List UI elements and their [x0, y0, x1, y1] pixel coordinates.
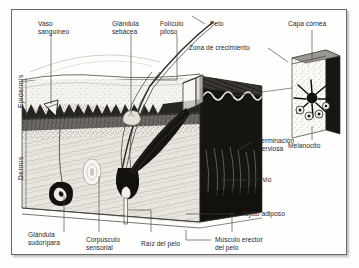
melanocyte-inset [292, 50, 340, 138]
skin-cross-section-figure: Epidermis Dermis Vaso sanguíneo Glándula… [0, 0, 359, 268]
sebaceous-gland [123, 111, 141, 126]
label-glandula-sudoripara: Glándula sudorípara [28, 231, 60, 247]
cut-arc-2 [40, 61, 152, 76]
skin-slab-dark [200, 76, 262, 222]
label-glandula-sebacea: Glándula sebácea [112, 20, 139, 36]
skin-slab-main [20, 71, 202, 228]
label-pelo: Pelo [210, 20, 223, 28]
label-capa-cornea: Capa córnea [288, 20, 326, 28]
label-nervio: Nervio [252, 176, 271, 184]
label-raiz-del-pelo: Raíz del pelo [141, 240, 180, 248]
label-tejido-adiposo: Tejido adiposo [242, 210, 285, 218]
label-corpusculo-sensorial: Corpúsculo sensorial [86, 236, 120, 252]
sensory-corpuscle [83, 159, 101, 185]
label-musculo-erector-del-pelo: Músculo erector del pelo [215, 236, 263, 252]
label-foliculo-piloso: Folículo piloso [160, 20, 184, 36]
label-dermis: Dermis [17, 156, 25, 180]
label-epidermis: Epidermis [17, 74, 25, 108]
hair-root-stem [124, 198, 127, 224]
label-terminacion-nerviosa: Terminación nerviosa [258, 137, 294, 153]
skin-diagram-artwork [0, 0, 359, 268]
label-zona-de-crecimiento: Zona de crecimiento [189, 44, 250, 52]
label-vaso-sanguineo: Vaso sanguíneo [38, 20, 69, 36]
